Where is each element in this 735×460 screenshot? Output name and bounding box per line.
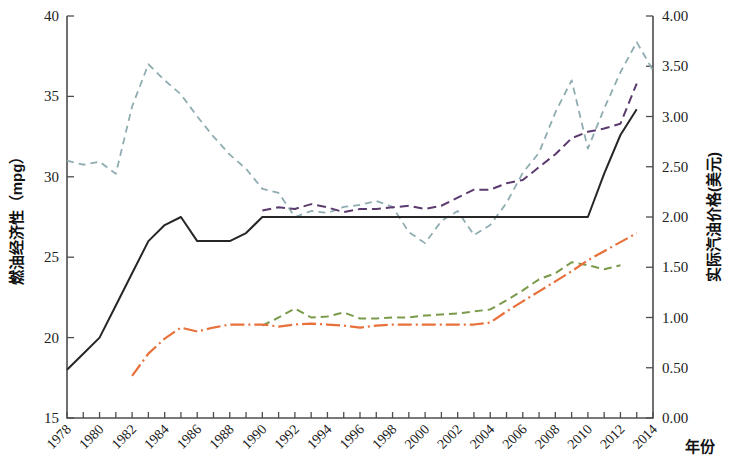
chart-canvas: 1520253035400.000.501.001.502.002.503.00… — [0, 0, 735, 460]
y2-axis-tick-label: 3.00 — [662, 109, 688, 125]
x-axis-tick-label: 1990 — [239, 422, 269, 452]
x-axis-tick-label: 1992 — [272, 422, 302, 452]
x-axis-tick-label: 2006 — [499, 422, 529, 452]
series-line-5 — [132, 233, 637, 376]
y2-axis-tick-label: 1.50 — [662, 259, 688, 275]
x-axis-tick-label: 1994 — [304, 422, 334, 452]
fuel-economy-chart: 1520253035400.000.501.001.502.002.503.00… — [0, 0, 735, 460]
y2-axis-tick-label: 0.00 — [662, 410, 688, 426]
y-axis-tick-label: 35 — [44, 88, 59, 104]
x-axis-tick-label: 2000 — [402, 422, 432, 452]
x-axis-tick-label: 1980 — [76, 422, 106, 452]
y2-axis-tick-label: 1.00 — [662, 310, 688, 326]
series-line-2 — [67, 109, 637, 370]
x-axis-tick-label: 1996 — [337, 422, 367, 452]
x-axis-tick-label: 2010 — [565, 422, 595, 452]
series-line-1 — [67, 42, 653, 243]
x-axis-tick-label: 2004 — [467, 422, 497, 452]
y2-axis-tick-label: 3.50 — [662, 58, 688, 74]
x-axis-tick-label: 1982 — [109, 422, 139, 452]
x-axis-tick-label: 1986 — [174, 422, 204, 452]
x-axis-tick-label: 2012 — [597, 422, 627, 452]
x-axis-tick-label: 2014 — [630, 422, 660, 452]
series-line-4 — [262, 262, 620, 325]
left-axis-title: 燃油经济性（mpg） — [8, 149, 25, 286]
x-axis-tick-label: 1998 — [369, 422, 399, 452]
y2-axis-tick-label: 2.50 — [662, 159, 688, 175]
x-axis-tick-label: 1984 — [141, 422, 171, 452]
y-axis-tick-label: 40 — [44, 8, 59, 24]
y-axis-tick-label: 15 — [44, 410, 59, 426]
x-axis-tick-label: 1988 — [206, 422, 236, 452]
y-axis-tick-label: 25 — [44, 249, 59, 265]
y-axis-tick-label: 20 — [44, 330, 59, 346]
right-axis-title: 实际汽油价格(美元) — [705, 152, 722, 282]
x-axis-tick-label: 2008 — [532, 422, 562, 452]
x-axis-tick-label: 1978 — [44, 422, 74, 452]
series-line-3 — [262, 84, 636, 213]
y2-axis-tick-label: 4.00 — [662, 8, 688, 24]
y-axis-tick-label: 30 — [44, 169, 59, 185]
y2-axis-tick-label: 2.00 — [662, 209, 688, 225]
x-axis-title: 年份 — [685, 438, 716, 455]
x-axis-tick-label: 2002 — [434, 422, 464, 452]
y2-axis-tick-label: 0.50 — [662, 360, 688, 376]
